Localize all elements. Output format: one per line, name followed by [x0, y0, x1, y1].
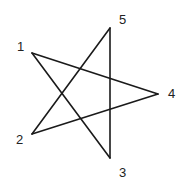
edge-4-1 — [32, 53, 158, 94]
edge-5-2 — [32, 28, 110, 134]
vertex-label-1: 1 — [17, 39, 24, 54]
vertex-label-4: 4 — [168, 86, 175, 101]
star-edges — [32, 28, 158, 158]
vertex-label-2: 2 — [16, 132, 23, 147]
edge-2-4 — [32, 94, 158, 134]
vertex-label-3: 3 — [119, 165, 126, 180]
pentagram-diagram: 1 2 3 4 5 — [0, 0, 186, 190]
edge-1-3 — [32, 53, 110, 158]
vertex-label-5: 5 — [119, 12, 126, 27]
